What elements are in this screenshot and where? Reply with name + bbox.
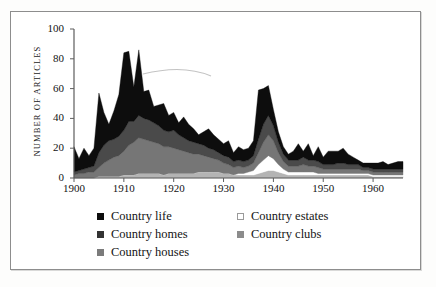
- y-tick-label: 60: [34, 82, 64, 94]
- legend-swatch-icon: [97, 231, 104, 238]
- x-tick-label: 1910: [104, 182, 144, 194]
- legend-swatch-icon: [237, 231, 244, 238]
- x-tick-label: 1920: [154, 182, 194, 194]
- legend-label: Country homes: [111, 228, 188, 241]
- y-tick-label: 40: [34, 111, 64, 123]
- legend-label: Country houses: [111, 246, 189, 259]
- area-series-group: [74, 50, 403, 178]
- chart-legend: Country lifeCountry homesCountry houses …: [11, 208, 422, 268]
- x-tick-label: 1930: [204, 182, 244, 194]
- legend-swatch-icon: [97, 249, 104, 256]
- y-tick-label: 20: [34, 141, 64, 153]
- figure-container: NUMBER OF ARTICLES 020406080100 19001910…: [0, 0, 436, 287]
- legend-label: Country estates: [251, 210, 328, 223]
- legend-item-country-houses: Country houses: [97, 244, 189, 261]
- x-tick-label: 1940: [253, 182, 293, 194]
- chart-frame: NUMBER OF ARTICLES 020406080100 19001910…: [10, 11, 421, 270]
- x-tick-label: 1960: [353, 182, 393, 194]
- legend-item-country-life: Country life: [97, 208, 189, 225]
- x-tick-label: 1900: [54, 182, 94, 194]
- x-tick-label: 1950: [303, 182, 343, 194]
- legend-swatch-icon: [97, 213, 104, 220]
- legend-swatch-icon: [237, 213, 244, 220]
- legend-item-country-estates: Country estates: [237, 208, 328, 225]
- legend-item-country-clubs: Country clubs: [237, 226, 328, 243]
- legend-label: Country life: [111, 210, 172, 223]
- legend-item-country-homes: Country homes: [97, 226, 189, 243]
- y-tick-label: 100: [34, 22, 64, 34]
- y-tick-label: 80: [34, 52, 64, 64]
- legend-label: Country clubs: [251, 228, 321, 241]
- plot-area: NUMBER OF ARTICLES 020406080100 19001910…: [11, 12, 422, 271]
- legend-column-left: Country lifeCountry homesCountry houses: [97, 208, 189, 262]
- legend-column-right: Country estatesCountry clubs: [237, 208, 328, 244]
